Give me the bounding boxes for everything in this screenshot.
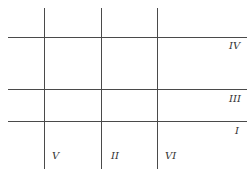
label-iv: IV	[229, 41, 240, 51]
label-iii: III	[229, 94, 241, 104]
vertical-line-ii	[101, 8, 102, 169]
label-ii: II	[111, 151, 119, 161]
label-vi: VI	[165, 151, 176, 161]
label-i: I	[235, 126, 239, 136]
vertical-line-vi	[157, 8, 158, 169]
vertical-line-v	[44, 8, 45, 169]
label-v: V	[52, 151, 59, 161]
